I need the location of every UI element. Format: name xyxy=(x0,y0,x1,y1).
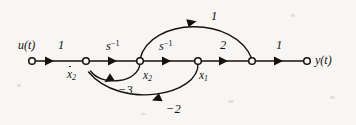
gain-exponent: −1 xyxy=(111,39,120,48)
gain-label-u-to-x2dot: 1 xyxy=(58,39,64,52)
node-label-subscript: 2 xyxy=(72,73,76,82)
gain-exponent: −1 xyxy=(164,39,173,48)
arrowhead-x2-to-x1 xyxy=(162,57,171,66)
node-label-subscript: 2 xyxy=(148,74,152,83)
edge-arc-feedforward-top xyxy=(140,27,252,59)
node-y xyxy=(304,58,311,65)
edge-arc-feedback-minus3 xyxy=(91,63,141,81)
arrowhead-u-to-x2dot xyxy=(45,57,54,66)
node-u xyxy=(29,58,36,65)
node-x1 xyxy=(195,58,202,65)
gain-label-feedback-minus2: −2 xyxy=(166,103,181,116)
arrowhead-n4-to-y xyxy=(274,57,283,66)
gain-label-integrator-2: s−1 xyxy=(159,40,172,53)
arrowhead-feedback-minus3 xyxy=(105,73,115,82)
gain-label-n4-to-y: 1 xyxy=(276,39,282,52)
node-x2dot xyxy=(83,58,90,65)
gain-label-feedforward-top: 1 xyxy=(211,10,217,23)
gain-label-x1-to-n4: 2 xyxy=(220,39,226,52)
node-label-x2: x2 xyxy=(143,70,152,83)
signal-flow-graph-figure: .wire { stroke: #14120f; stroke-width: 1… xyxy=(0,0,356,125)
output-terminal-label: y(t) xyxy=(315,54,332,66)
node-label-x1: x1 xyxy=(199,70,208,83)
arrowhead-x2dot-to-x2 xyxy=(108,57,117,66)
arrowhead-x1-to-n4 xyxy=(219,57,228,66)
node-n4 xyxy=(249,58,256,65)
gain-label-integrator-1: s−1 xyxy=(106,40,119,53)
input-terminal-label: u(t) xyxy=(18,39,35,51)
x-with-dot: x xyxy=(67,69,72,81)
node-label-x2dot: x2 xyxy=(67,69,76,82)
node-label-base: x xyxy=(67,68,72,80)
node-label-subscript: 1 xyxy=(204,74,208,83)
node-x2 xyxy=(137,58,144,65)
gain-label-feedback-minus3: −3 xyxy=(118,84,133,97)
